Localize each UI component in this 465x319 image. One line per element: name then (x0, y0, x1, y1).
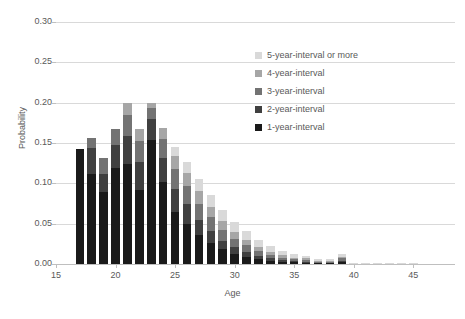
bar-segment (254, 240, 263, 247)
bar-segment (147, 140, 156, 264)
bar-stack[interactable] (76, 149, 85, 264)
x-tick-mark (56, 264, 57, 268)
x-tick-label: 30 (215, 270, 255, 280)
x-axis-title: Age (0, 288, 465, 298)
legend-swatch-icon (255, 88, 262, 95)
bar-segment (123, 103, 132, 115)
bar-segment (195, 204, 204, 220)
bar-stack[interactable] (338, 254, 347, 264)
bar-segment (314, 262, 323, 263)
x-tick-label: 15 (36, 270, 76, 280)
bar-stack[interactable] (254, 240, 263, 264)
bar-stack[interactable] (171, 147, 180, 264)
legend-swatch-icon (255, 70, 262, 77)
bar-segment (207, 207, 216, 217)
legend-item[interactable]: 1-year-interval (255, 118, 415, 136)
x-tick-mark (235, 264, 236, 268)
bar-segment (99, 192, 108, 264)
y-tick-label: 0.15 (12, 137, 52, 147)
bar-segment (195, 235, 204, 264)
legend-swatch-icon (255, 106, 262, 113)
bar-segment (314, 261, 323, 262)
legend-item-label: 1-year-interval (267, 122, 325, 132)
y-tick-label: 0.00 (12, 258, 52, 268)
bar-stack[interactable] (218, 210, 227, 264)
bar-segment (207, 195, 216, 207)
y-tick-label: 0.30 (12, 16, 52, 26)
bar-segment (135, 141, 144, 163)
bar-segment (159, 158, 168, 182)
x-tick-label: 40 (334, 270, 374, 280)
legend: 5-year-interval or more4-year-interval3-… (255, 46, 415, 136)
bar-segment (195, 191, 204, 203)
bar-stack[interactable] (230, 222, 239, 264)
bar-segment (242, 231, 251, 240)
probability-by-age-stacked-bar-chart: Probability 0.000.050.100.150.200.250.30… (0, 0, 465, 319)
bar-stack[interactable] (111, 129, 120, 264)
bar-stack[interactable] (135, 129, 144, 264)
bar-stack[interactable] (183, 162, 192, 264)
bar-segment (218, 221, 227, 230)
bar-segment (123, 115, 132, 136)
bar-segment (230, 254, 239, 264)
bar-segment (99, 174, 108, 193)
bar-segment (242, 240, 251, 246)
bar-segment (242, 252, 251, 257)
bar-stack[interactable] (123, 103, 132, 264)
legend-item[interactable]: 5-year-interval or more (255, 46, 415, 64)
x-tick-mark (294, 264, 295, 268)
bar-segment (171, 169, 180, 189)
bar-segment (230, 239, 239, 247)
bar-segment (183, 162, 192, 173)
bar-segment (76, 149, 85, 264)
bar-segment (278, 258, 287, 260)
bar-stack[interactable] (99, 158, 108, 264)
bar-segment (302, 256, 311, 258)
legend-item[interactable]: 3-year-interval (255, 82, 415, 100)
x-tick-mark (116, 264, 117, 268)
bar-segment (266, 258, 275, 260)
bar-segment (123, 164, 132, 264)
legend-item[interactable]: 4-year-interval (255, 64, 415, 82)
bar-segment (195, 220, 204, 235)
bar-segment (326, 259, 335, 261)
bar-segment (218, 249, 227, 264)
bar-stack[interactable] (207, 195, 216, 264)
bar-segment (290, 258, 299, 260)
bar-segment (278, 260, 287, 262)
bar-segment (302, 262, 311, 263)
bar-segment (218, 241, 227, 250)
bar-segment (242, 257, 251, 264)
y-tick-label: 0.05 (12, 218, 52, 228)
bar-segment (135, 129, 144, 140)
bar-segment (123, 136, 132, 164)
bar-stack[interactable] (87, 138, 96, 264)
x-tick-mark (354, 264, 355, 268)
bar-segment (207, 231, 216, 243)
x-tick-label: 25 (155, 270, 195, 280)
bar-stack[interactable] (266, 246, 275, 264)
bar-segment (171, 147, 180, 156)
legend-item[interactable]: 2-year-interval (255, 100, 415, 118)
bar-stack[interactable] (290, 254, 299, 264)
y-tick-label: 0.10 (12, 177, 52, 187)
bar-segment (278, 251, 287, 255)
bar-segment (111, 168, 120, 264)
bar-segment (338, 257, 347, 259)
bar-stack[interactable] (242, 231, 251, 264)
bar-segment (171, 212, 180, 264)
bar-segment (242, 245, 251, 251)
bar-segment (111, 145, 120, 168)
bar-stack[interactable] (302, 256, 311, 264)
bar-segment (87, 174, 96, 264)
legend-item-label: 4-year-interval (267, 68, 325, 78)
bar-segment (207, 243, 216, 264)
bar-stack[interactable] (147, 103, 156, 264)
bar-stack[interactable] (195, 179, 204, 264)
bar-segment (135, 190, 144, 264)
bar-segment (207, 217, 216, 231)
bar-stack[interactable] (159, 128, 168, 264)
bar-segment (266, 255, 275, 258)
bar-segment (87, 148, 96, 174)
bar-stack[interactable] (278, 251, 287, 264)
